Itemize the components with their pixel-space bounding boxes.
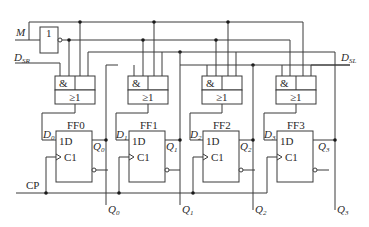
svg-text:Q0: Q0 (93, 140, 105, 154)
output-q3-label: Q3 (337, 203, 349, 217)
flipflop-ff3: FF3 1D C1 D3 Q3 (263, 119, 335, 182)
svg-text:FF0: FF0 (67, 119, 85, 131)
flipflop-ff1: FF1 1D C1 D1 Q1 (115, 119, 180, 193)
svg-text:FF1: FF1 (140, 119, 158, 131)
flipflop-ff2: FF2 1D C1 D2 Q2 (189, 119, 255, 193)
svg-text:≥1: ≥1 (142, 91, 154, 103)
svg-text:D0: D0 (42, 128, 55, 142)
svg-text:FF3: FF3 (287, 119, 305, 131)
svg-text:C1: C1 (285, 151, 298, 163)
svg-text:1D: 1D (280, 135, 294, 147)
svg-text:&: & (59, 77, 68, 89)
svg-text:&: & (280, 77, 289, 89)
svg-text:≥1: ≥1 (216, 91, 228, 103)
svg-text:Q1: Q1 (166, 140, 177, 154)
svg-text:Q3: Q3 (318, 140, 330, 154)
gate-input-wires (69, 22, 350, 76)
output-q2-label: Q2 (255, 203, 267, 217)
and-or-gate-3: & ≥1 (276, 76, 316, 104)
serial-left-input-label: DSL (340, 51, 356, 65)
clock-input-label: CP (26, 179, 39, 191)
svg-text:FF2: FF2 (213, 119, 231, 131)
and-or-gate-2: & ≥1 (202, 76, 242, 104)
mode-input-label: M (15, 26, 26, 38)
svg-text:D3: D3 (263, 128, 276, 142)
svg-text:1D: 1D (206, 135, 220, 147)
flipflop-ff0: FF0 1D C1 D0 Q0 (42, 119, 108, 193)
svg-text:&: & (132, 77, 141, 89)
svg-text:Q2: Q2 (240, 140, 252, 154)
output-q0-label: Q0 (108, 203, 120, 217)
mode-bus (15, 22, 350, 76)
svg-text:C1: C1 (137, 151, 150, 163)
inverter-label: 1 (46, 27, 52, 39)
svg-text:&: & (206, 77, 215, 89)
inverter-gate: 1 (40, 27, 62, 53)
serial-right-input-label: DSR (13, 51, 30, 65)
shift-register-diagram: 1 M DSR DSL (0, 0, 369, 227)
output-q1-label: Q1 (182, 203, 193, 217)
svg-text:D2: D2 (189, 128, 202, 142)
svg-text:C1: C1 (64, 151, 77, 163)
and-or-gate-1: & ≥1 (128, 76, 168, 104)
svg-text:C1: C1 (211, 151, 224, 163)
svg-text:≥1: ≥1 (290, 91, 302, 103)
svg-text:≥1: ≥1 (69, 91, 81, 103)
svg-text:D1: D1 (115, 128, 127, 142)
svg-text:1D: 1D (59, 135, 73, 147)
and-or-gate-0: & ≥1 (55, 76, 95, 104)
svg-text:1D: 1D (132, 135, 146, 147)
